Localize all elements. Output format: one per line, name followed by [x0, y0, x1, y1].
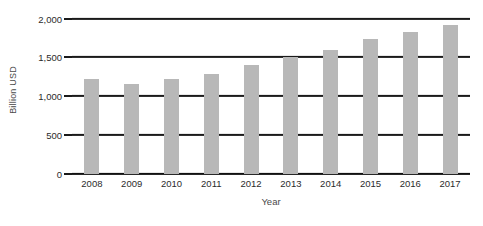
x-axis-tick-label: 2012: [241, 178, 262, 189]
x-axis-tick-label: 2015: [360, 178, 381, 189]
bar[interactable]: [403, 32, 418, 173]
x-axis-title: Year: [72, 196, 470, 207]
bar[interactable]: [323, 50, 338, 174]
y-axis-tick-mark: [64, 173, 72, 175]
x-axis-tick-label: 2017: [440, 178, 461, 189]
y-axis-tick-mark: [64, 18, 72, 20]
bar-chart-figure: Billion USD 05001,0001,5002,000 20082009…: [0, 0, 483, 226]
y-axis-tick-mark-group: [64, 0, 72, 226]
bar[interactable]: [84, 79, 99, 174]
y-axis-tick-label: 2,000: [18, 13, 62, 24]
x-axis-tick-label: 2013: [280, 178, 301, 189]
bar[interactable]: [124, 84, 139, 174]
x-axis-tick-label-group: 2008200920102011201220132014201520162017: [72, 178, 470, 194]
x-axis-tick-label: 2014: [320, 178, 341, 189]
bar[interactable]: [283, 57, 298, 173]
bar[interactable]: [443, 25, 458, 174]
y-axis-tick-label: 1,000: [18, 91, 62, 102]
y-axis-tick-label: 1,500: [18, 52, 62, 63]
bar[interactable]: [363, 39, 378, 174]
x-axis-tick-label: 2011: [201, 178, 221, 189]
y-axis-tick-label-group: 05001,0001,5002,000: [18, 0, 62, 226]
bar[interactable]: [164, 79, 179, 174]
bar[interactable]: [204, 74, 219, 173]
plot-area: 2008200920102011201220132014201520162017: [72, 0, 470, 226]
y-axis-tick-mark: [64, 134, 72, 136]
y-axis-tick-mark: [64, 56, 72, 58]
x-axis-tick-label: 2009: [121, 178, 142, 189]
y-axis-tick-label: 500: [18, 129, 62, 140]
x-axis-tick-label: 2010: [161, 178, 182, 189]
y-axis-title-text: Billion USD: [8, 66, 18, 114]
y-axis-tick-label: 0: [18, 168, 62, 179]
y-axis-tick-mark: [64, 95, 72, 97]
x-axis-tick-label: 2016: [400, 178, 421, 189]
x-axis-tick-label: 2008: [81, 178, 102, 189]
bar[interactable]: [244, 65, 259, 174]
